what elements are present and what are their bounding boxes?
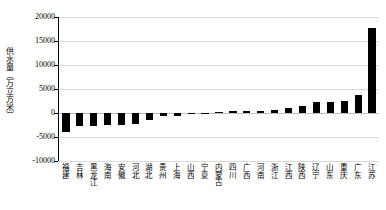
bar [132, 113, 139, 124]
x-tick-label: 宁夏 [200, 163, 208, 178]
bar [90, 113, 97, 126]
x-tick-label: 广东 [353, 163, 361, 178]
gridline [59, 137, 379, 138]
x-tick-label: 浙江 [270, 163, 278, 178]
y-tick-label: 10000 [35, 61, 55, 69]
gridline [59, 17, 379, 18]
gridline [59, 65, 379, 66]
y-axis-title: 供水量（万立方米） [0, 0, 16, 165]
bar [188, 113, 195, 114]
x-tick-label: 河南 [256, 163, 264, 178]
x-tick-label: 上海 [172, 163, 180, 178]
y-tick-label: -5000 [36, 133, 55, 141]
x-tick-label: 陕西 [297, 163, 305, 178]
bar [271, 110, 278, 113]
gridline [59, 161, 379, 162]
bar-chart: 供水量（万立方米） 20000150001000050000-5000-1000… [0, 0, 386, 210]
x-tick-label: 山东 [325, 163, 333, 178]
y-tick-label: 5000 [39, 85, 55, 93]
bar [243, 111, 250, 113]
gridline [59, 89, 379, 90]
x-tick-label: 安徽 [117, 163, 125, 178]
y-tick-label: 20000 [35, 13, 55, 21]
x-tick-label: 湖北 [144, 163, 152, 178]
bar [285, 108, 292, 113]
x-tick-label: 四川 [228, 163, 236, 178]
bar [257, 111, 264, 113]
x-tick-label: 福建 [61, 163, 69, 178]
bar [313, 102, 320, 113]
bar [62, 113, 69, 132]
x-tick-label: 江西 [284, 163, 292, 178]
x-tick-label: 广西 [242, 163, 250, 178]
bar [201, 113, 208, 114]
x-tick-label: 江苏 [367, 163, 375, 178]
x-tick-label: 重庆 [339, 163, 347, 178]
bar [327, 102, 334, 113]
bar [118, 113, 125, 125]
plot-area [58, 17, 378, 161]
x-tick-label: 辽宁 [311, 163, 319, 178]
x-tick-label: 海南 [103, 163, 111, 178]
x-tick-label: 山西 [186, 163, 194, 178]
bar [160, 113, 167, 116]
x-tick-label: 贵州 [158, 163, 166, 178]
x-tick-label: 吉林 [75, 163, 83, 178]
bar [76, 113, 83, 126]
y-tick-label: 15000 [35, 37, 55, 45]
y-tick-label: -10000 [32, 157, 55, 165]
bar [104, 113, 111, 125]
bar [215, 112, 222, 113]
bar [146, 113, 153, 120]
bar [341, 101, 348, 113]
bar [229, 111, 236, 113]
gridline [59, 41, 379, 42]
x-axis-labels: 福建吉林黑龙江海南安徽河北湖北贵州上海山西宁夏内蒙古四川广西河南浙江江西陕西辽宁… [58, 163, 378, 209]
x-tick-label: 黑龙江 [89, 163, 97, 186]
y-tick-label: 0 [51, 109, 55, 117]
bar [355, 95, 362, 113]
bar [174, 113, 181, 116]
x-tick-label: 河北 [131, 163, 139, 178]
bar [368, 28, 375, 113]
y-axis-title-label: 供水量（万立方米） [4, 47, 12, 119]
bar [299, 106, 306, 113]
x-tick-label: 内蒙古 [214, 163, 222, 186]
